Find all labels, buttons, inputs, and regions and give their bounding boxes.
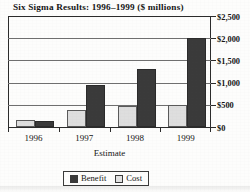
x-tick	[210, 128, 211, 132]
y-tick-0	[211, 127, 216, 128]
x-tick-label-1996: 1996	[10, 132, 56, 144]
bar-group-1997	[65, 17, 116, 127]
bar-group-1998	[116, 17, 167, 127]
x-tick-label-1997: 1997	[61, 132, 107, 144]
bar-group-1996	[14, 17, 65, 127]
x-tick	[59, 128, 60, 132]
bar-benefit-1997	[86, 85, 105, 127]
y-tick-label: $0	[217, 124, 225, 133]
y-tick-label: $1,000	[217, 79, 240, 88]
y-axis: $0$500$1,000$1,500$2,000$2,500	[211, 17, 250, 128]
y-tick-2000	[211, 38, 216, 39]
six-sigma-results-bar-chart: Six Sigma Results: 1996–1999 ($ millions…	[0, 0, 250, 192]
x-axis: 1996199719981999	[8, 128, 211, 148]
chart-title: Six Sigma Results: 1996–1999 ($ millions…	[13, 0, 213, 14]
y-tick-label: $2,000	[217, 35, 240, 44]
legend-label: Benefit	[81, 174, 106, 183]
chart-legend: BenefitCost	[63, 171, 149, 186]
y-tick-label: $1,500	[217, 57, 240, 66]
y-tick-500	[211, 105, 216, 106]
bar-cost-1997	[67, 110, 86, 127]
y-tick-1000	[211, 83, 216, 84]
bar-cost-1996	[16, 120, 35, 127]
y-tick-2500	[211, 16, 216, 17]
y-tick-1500	[211, 60, 216, 61]
x-tick-label-1999: 1999	[163, 132, 209, 144]
bar-cost-1998	[118, 106, 137, 127]
legend-entry-benefit: Benefit	[70, 174, 106, 183]
bar-benefit-1998	[137, 69, 156, 127]
bars-layer	[8, 17, 211, 128]
y-tick-label: $500	[217, 101, 234, 110]
bar-benefit-1999	[187, 38, 206, 127]
x-tick	[8, 128, 9, 132]
x-tick	[160, 128, 161, 132]
plot-area	[8, 17, 211, 128]
benefit-swatch	[70, 175, 78, 183]
cost-swatch	[115, 175, 123, 183]
legend-entry-cost: Cost	[115, 174, 142, 183]
bar-cost-1999	[168, 105, 187, 127]
bar-group-1999	[166, 17, 217, 127]
legend-label: Cost	[126, 174, 142, 183]
x-tick	[110, 128, 111, 132]
x-tick-label-1998: 1998	[112, 132, 158, 144]
y-tick-label: $2,500	[217, 13, 240, 22]
scan-smudge-overlay	[0, 186, 250, 192]
x-axis-title: Estimate	[8, 147, 211, 159]
